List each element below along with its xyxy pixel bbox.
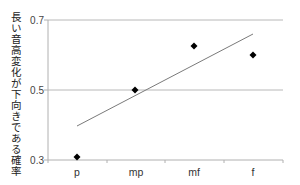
x-label-p: p [74, 166, 80, 178]
data-points [74, 43, 257, 161]
y-tick-0.3: 0.3 [30, 155, 44, 166]
chart: 0.7 0.5 0.3 p mp mf f [0, 0, 300, 185]
axes [44, 20, 283, 163]
data-point-mp [132, 87, 139, 94]
data-point-p [74, 154, 81, 161]
y-tick-0.7: 0.7 [30, 15, 44, 26]
x-label-f: f [252, 166, 255, 178]
data-point-f [250, 52, 257, 59]
x-tick-labels: p mp mf f [74, 166, 254, 178]
x-label-mf: mf [188, 166, 200, 178]
y-tick-0.5: 0.5 [30, 85, 44, 96]
x-label-mp: mp [129, 166, 144, 178]
y-tick-labels: 0.7 0.5 0.3 [30, 15, 44, 166]
trendline [77, 34, 253, 126]
data-point-mf [191, 43, 198, 50]
